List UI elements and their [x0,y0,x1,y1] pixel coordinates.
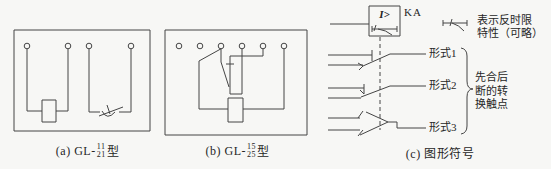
panel-b-model-fraction: 1525 [247,143,256,160]
form-2-contact [328,84,426,98]
panel-b-wiring [199,49,284,122]
annotation-line-2: 特性（可略） [477,27,543,40]
brace-note: 先合后 断的转 换触点 [475,71,508,112]
panel-b-caption-suffix: 型 [257,142,270,160]
panel-a-model-denominator: 21 [97,151,106,159]
panel-c-caption: (c) 图形符号 [380,144,500,162]
relay-figure: I> KA 形式1 形式2 形式3 先合后 断的转 换触点 表示反时限 特性（可… [0,0,551,169]
panel-b-caption: (b) GL-1525型 [170,142,305,160]
panel-a-caption-prefix: (a) GL- [56,144,96,159]
panel-b-terminals [176,43,287,49]
form-3-label: 形式3 [429,122,457,133]
panel-a-terminals [24,43,134,49]
form-1-label: 形式1 [429,48,457,59]
brace-note-line-3: 换触点 [475,98,508,112]
inverse-time-curve [372,25,397,35]
panel-b-contact-blade [221,49,229,87]
form-3-contact [328,111,426,136]
form-2-label: 形式2 [429,80,457,91]
inverse-time-annotation: 表示反时限 特性（可略） [477,14,543,40]
relay-element-symbol: I> [369,9,400,20]
panel-a-coil [42,100,56,122]
brace-note-line-1: 先合后 [475,71,508,85]
relay-label: KA [404,7,422,18]
panel-a-model-fraction: 1121 [97,143,106,160]
panel-a-contact-circuit [89,49,131,116]
grouping-brace [461,48,473,134]
panel-b-fixed-contact [230,56,242,94]
brace-note-line-2: 断的转 [475,85,508,99]
panel-a-caption: (a) GL-1121型 [20,142,155,160]
annotation-line-1: 表示反时限 [477,14,543,27]
panel-a-coil-circuit [27,49,68,122]
panel-b-case-outline [165,30,307,135]
panel-a-case-outline [14,30,150,131]
panel-b-model-denominator: 25 [247,151,256,159]
panel-b-caption-prefix: (b) GL- [206,144,246,159]
panel-b-coil [228,98,243,122]
annotation-symbol [443,19,467,31]
form-1-contact [328,50,426,70]
panel-a-caption-suffix: 型 [107,142,120,160]
